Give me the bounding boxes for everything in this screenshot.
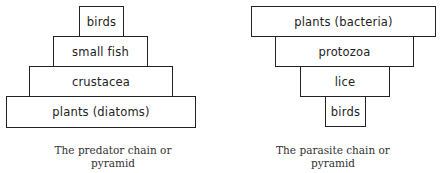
level-label: plants (diatoms) bbox=[52, 105, 149, 119]
parasite-level-protozoa: protozoa bbox=[275, 36, 414, 67]
level-label: plants (bacteria) bbox=[294, 15, 393, 29]
parasite-caption: The parasite chain or pyramid bbox=[248, 144, 418, 170]
caption-line-1: The parasite chain or bbox=[248, 144, 418, 157]
caption-line-1: The predator chain or bbox=[28, 144, 198, 157]
parasite-level-plants: plants (bacteria) bbox=[251, 6, 436, 37]
predator-level-crustacea: crustacea bbox=[29, 66, 173, 97]
level-label: birds bbox=[87, 15, 116, 29]
level-label: small fish bbox=[72, 45, 129, 59]
level-label: lice bbox=[335, 75, 356, 89]
caption-line-2: pyramid bbox=[248, 157, 418, 170]
level-label: protozoa bbox=[318, 45, 370, 59]
parasite-level-birds: birds bbox=[325, 96, 366, 127]
level-label: crustacea bbox=[72, 75, 130, 89]
predator-level-small-fish: small fish bbox=[53, 36, 148, 67]
parasite-level-lice: lice bbox=[300, 66, 390, 97]
predator-level-plants: plants (diatoms) bbox=[6, 96, 196, 128]
predator-caption: The predator chain or pyramid bbox=[28, 144, 198, 170]
caption-line-2: pyramid bbox=[28, 157, 198, 170]
predator-level-birds: birds bbox=[79, 6, 124, 37]
level-label: birds bbox=[331, 105, 360, 119]
